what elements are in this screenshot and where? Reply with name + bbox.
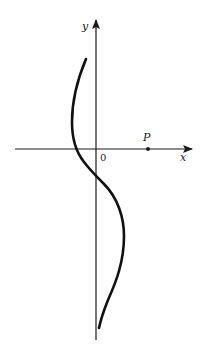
x-axis-label: x xyxy=(180,151,187,164)
point-p xyxy=(146,147,150,151)
point-p-label: P xyxy=(142,131,151,144)
curve xyxy=(72,59,124,328)
y-axis-label: y xyxy=(81,20,89,33)
origin-label: 0 xyxy=(100,152,106,163)
coordinate-diagram: y x 0 P xyxy=(0,0,201,352)
